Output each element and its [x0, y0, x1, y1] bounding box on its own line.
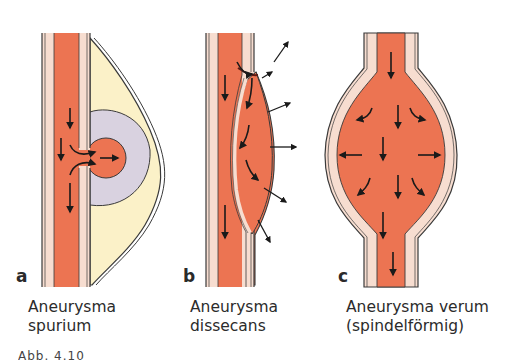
caption-line: Aneurysma verum	[346, 298, 489, 317]
caption-line: Aneurysma	[190, 298, 278, 317]
panel-label-b: b	[183, 268, 195, 285]
panel-c-aneurysma-verum	[325, 33, 457, 287]
caption-line: (spindelförmig)	[346, 317, 489, 336]
vessel-lumen	[54, 33, 79, 287]
caption-aneurysma-dissecans: Aneurysma dissecans	[190, 298, 278, 336]
panel-label-a: a	[16, 268, 27, 285]
caption-line: spurium	[28, 317, 116, 336]
caption-aneurysma-spurium: Aneurysma spurium	[28, 298, 116, 336]
figure-caption-cutoff: Abb. 4.10	[18, 350, 498, 360]
caption-line: Aneurysma	[28, 298, 116, 317]
caption-aneurysma-verum: Aneurysma verum (spindelförmig)	[346, 298, 489, 336]
aneurysm-diagram	[0, 0, 507, 300]
panel-a-aneurysma-spurium	[42, 33, 165, 287]
panel-label-c: c	[338, 268, 348, 285]
caption-line: dissecans	[190, 317, 278, 336]
panel-b-aneurysma-dissecans	[206, 33, 296, 287]
